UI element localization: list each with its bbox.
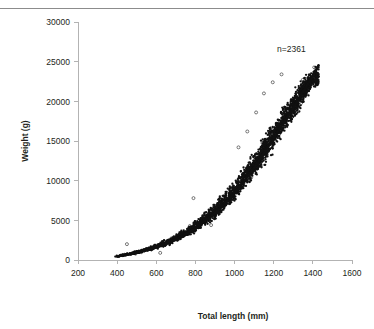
scatter-point [223,207,225,209]
scatter-point [252,156,254,158]
scatter-point [269,137,271,139]
scatter-point [269,126,271,128]
x-tick-label: 600 [149,268,163,278]
scatter-point [210,207,212,209]
scatter-point [279,138,281,140]
y-tick-label: 20000 [46,97,70,107]
scatter-point [289,106,291,108]
scatter-point [259,152,261,154]
scatter-point [187,228,189,230]
trend-curve-group [116,64,320,258]
scatter-point [317,76,319,78]
scatter-point [277,124,279,126]
scatter-point [265,161,267,163]
scatter-point [183,229,185,231]
scatter-point [286,104,288,106]
scatter-point [291,118,293,120]
scatter-point [284,106,286,108]
scatter-point [248,167,250,169]
scatter-point [295,92,297,94]
scatter-point [223,195,225,197]
scatter-point [260,161,262,163]
y-tick-label: 5000 [51,216,70,226]
scatter-point [242,176,244,178]
scatter-point [273,129,275,131]
scatter-point [294,95,296,97]
scatter-point [205,211,207,213]
scatter-point [249,158,251,160]
scatter-point [254,159,256,161]
scatter-point [276,140,278,142]
y-tick-label: 30000 [46,17,70,27]
scatter-point [259,165,261,167]
scatter-point [200,227,202,229]
scatter-point [267,140,269,142]
scatter-point [229,185,231,187]
scatter-point [307,77,309,79]
scatter-point [207,213,209,215]
scatter-point [275,127,277,129]
scatter-point [232,186,234,188]
scatter-point [225,196,227,198]
y-tick-label: 25000 [46,57,70,67]
scatter-point [154,244,156,246]
scatter-point [257,151,259,153]
scatter-point [284,126,286,128]
scatter-point [201,214,203,216]
x-tick-label: 1200 [264,268,283,278]
scatter-point [281,106,283,108]
scatter-point [271,147,273,149]
x-tick-label: 200 [71,268,85,278]
scatter-point [250,179,252,181]
scatter-point [310,72,312,74]
scatter-point [298,87,300,89]
scatter-point [236,184,238,186]
scatter-outlier-point [255,111,258,114]
scatter-point [292,116,294,118]
scatter-point [222,198,224,200]
scatter-point [175,233,177,235]
scatter-point [249,163,251,165]
scatter-point [250,166,252,168]
scatter-point [301,85,303,87]
scatter-point [256,173,258,175]
scatter-point [283,130,285,132]
scatter-point [298,90,300,92]
scatter-point [208,210,210,212]
scatter-outlier-point [246,130,249,133]
scatter-point [279,132,281,134]
scatter-point [280,112,282,114]
y-tick-label: 0 [65,255,70,265]
scatter-point [220,211,222,213]
scatter-outlier-point [262,92,265,95]
scatter-point [262,145,264,147]
scatter-outlier-point [125,243,128,246]
y-tick-label: 15000 [46,136,70,146]
x-tick-label: 1600 [343,268,362,278]
scatter-point [302,100,304,102]
sample-size-annotation: n=2361 [277,44,306,54]
x-axis-title: Total length (mm) [198,311,269,321]
scatter-point [202,216,204,218]
scatter-point [277,137,279,139]
scatter-point [272,126,274,128]
scatter-point [228,189,230,191]
scatter-point [163,239,165,241]
scatter-point [255,156,257,158]
scatter-point [205,215,207,217]
scatter-point [282,109,284,111]
scatter-point [314,79,316,81]
scatter-point [286,124,288,126]
scatter-point [169,243,171,245]
scatter-point [268,148,270,150]
scatter-point [245,185,247,187]
scatter-point [260,146,262,148]
scatter-point [301,98,303,100]
scatter-point [257,156,259,158]
scatter-point [287,120,289,122]
scatter-point [316,72,318,74]
scatter-point [264,164,266,166]
scatter-point [252,164,254,166]
scatter-point [214,206,216,208]
x-tick-label: 1000 [225,268,244,278]
